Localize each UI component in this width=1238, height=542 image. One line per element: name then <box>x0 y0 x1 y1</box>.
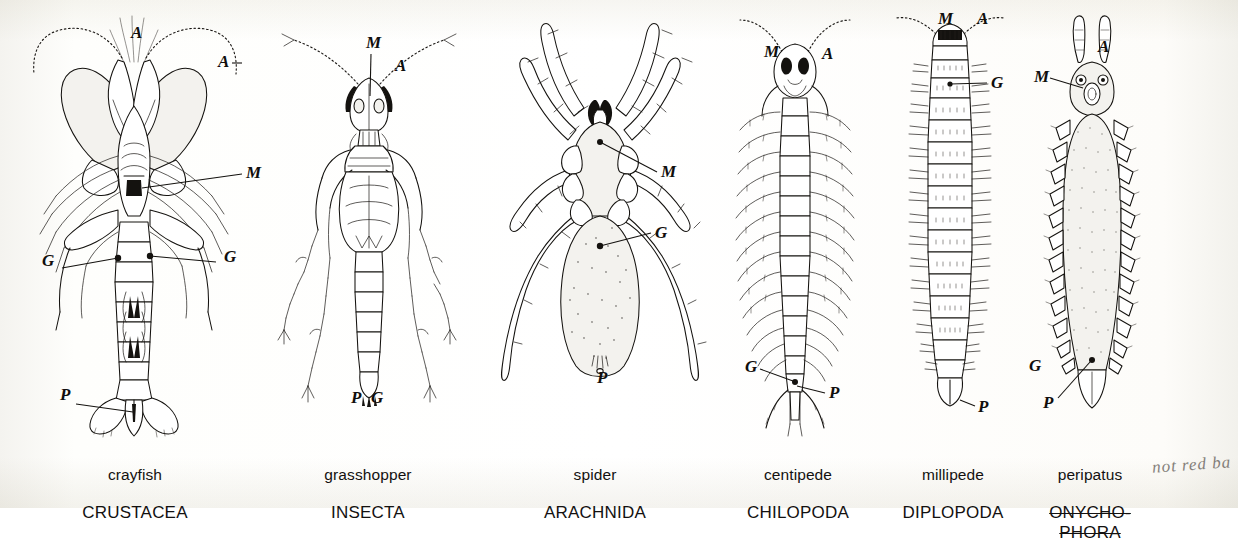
common-name-grasshopper: grasshopper <box>268 466 468 484</box>
caption-grasshopper: grasshopper INSECTA <box>268 447 468 542</box>
centipede-marks: M A G P <box>720 0 870 440</box>
mark-M-crayfish: M <box>245 163 262 182</box>
mark-G-crayfish-right: G <box>224 247 237 266</box>
mark-P-grasshopper: P <box>350 388 362 407</box>
mark-G-grasshopper: G <box>371 388 384 407</box>
mark-M-peripatus: M <box>1033 67 1050 86</box>
caption-peripatus: peripatus ONYCHO- PHORA <box>1020 447 1160 542</box>
common-name-crayfish: crayfish <box>40 466 230 484</box>
mark-M-millipede: M <box>937 9 954 28</box>
mark-P-peripatus: P <box>1042 393 1054 412</box>
common-name-peripatus: peripatus <box>1020 466 1160 484</box>
taxon-grasshopper: INSECTA <box>268 503 468 523</box>
mark-A-crayfish-2: A <box>217 52 229 71</box>
taxon-peripatus: ONYCHO- PHORA <box>1020 503 1160 542</box>
grasshopper-marks: M A P G <box>270 0 470 440</box>
panel-spider: M G P <box>500 0 720 508</box>
mark-G-peripatus: G <box>1029 356 1042 375</box>
caption-centipede: centipede CHILOPODA <box>718 447 878 542</box>
common-name-centipede: centipede <box>718 466 878 484</box>
mark-M-centipede: M <box>763 42 780 61</box>
taxon-crayfish: CRUSTACEA <box>40 503 230 523</box>
mark-M-spider: M <box>660 162 677 181</box>
mark-M-grasshopper: M <box>365 33 382 52</box>
mark-A-peripatus: A <box>1097 37 1109 56</box>
mark-P-spider: P <box>596 368 608 387</box>
common-name-spider: spider <box>500 466 690 484</box>
caption-spider: spider ARACHNIDA <box>500 447 690 542</box>
crayfish-marks: A A M G G P <box>0 0 270 440</box>
caption-crayfish: crayfish CRUSTACEA <box>40 447 230 542</box>
spider-marks: M G P <box>500 0 720 440</box>
panel-centipede: M A G P <box>720 0 870 508</box>
panel-peripatus: A M G P <box>1020 0 1170 508</box>
panel-millipede: M A G P <box>880 0 1020 508</box>
mark-A-millipede: A <box>976 9 988 28</box>
mark-A-crayfish-1: A <box>130 23 142 42</box>
panel-grasshopper: M A P G <box>270 0 470 508</box>
taxon-centipede: CHILOPODA <box>718 503 878 523</box>
mark-A-centipede: A <box>821 44 833 63</box>
mark-P-crayfish: P <box>59 385 71 404</box>
peripatus-marks: A M G P <box>1020 0 1170 440</box>
mark-G-crayfish-left: G <box>42 251 55 270</box>
common-name-millipede: millipede <box>878 466 1028 484</box>
handwritten-margin-note: not red ba <box>1151 452 1231 477</box>
taxon-spider: ARACHNIDA <box>500 503 690 523</box>
taxon-millipede: DIPLOPODA <box>878 503 1028 523</box>
mark-P-millipede: P <box>977 397 989 416</box>
mark-P-centipede: P <box>828 383 840 402</box>
millipede-marks: M A G P <box>880 0 1020 440</box>
mark-G-spider: G <box>655 223 668 242</box>
mark-A-grasshopper: A <box>394 56 406 75</box>
mark-G-centipede: G <box>745 357 758 376</box>
panel-crayfish: A A M G G P <box>0 0 270 508</box>
mark-G-millipede: G <box>991 73 1004 92</box>
caption-millipede: millipede DIPLOPODA <box>878 447 1028 542</box>
